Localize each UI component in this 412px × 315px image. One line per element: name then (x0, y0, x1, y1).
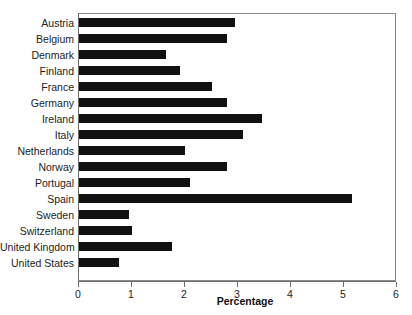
category-label-spain: Spain (0, 191, 74, 207)
bar-row: Italy (0, 127, 412, 143)
category-label-germany: Germany (0, 95, 74, 111)
bar-row: Belgium (0, 31, 412, 47)
bar-row: Denmark (0, 47, 412, 63)
x-tick (396, 282, 397, 287)
bar-portugal (79, 178, 190, 187)
bar-row: United Kingdom (0, 239, 412, 255)
category-label-ireland: Ireland (0, 111, 74, 127)
category-label-finland: Finland (0, 63, 74, 79)
bar-ireland (79, 114, 262, 123)
category-label-austria: Austria (0, 15, 74, 31)
x-tick (78, 282, 79, 287)
bar-row: France (0, 79, 412, 95)
category-label-france: France (0, 79, 74, 95)
bar-denmark (79, 50, 166, 59)
x-axis-title: Percentage (0, 295, 412, 307)
bar-row: Spain (0, 191, 412, 207)
bar-sweden (79, 210, 129, 219)
x-tick (131, 282, 132, 287)
bar-row: Ireland (0, 111, 412, 127)
x-tick (290, 282, 291, 287)
x-tick (237, 282, 238, 287)
x-axis: 0123456 (78, 281, 396, 282)
bar-norway (79, 162, 227, 171)
bar-row: Netherlands (0, 143, 412, 159)
category-label-switzerland: Switzerland (0, 223, 74, 239)
category-label-united-kingdom: United Kingdom (0, 239, 74, 255)
bar-germany (79, 98, 227, 107)
bar-row: Finland (0, 63, 412, 79)
bar-row: Sweden (0, 207, 412, 223)
bar-united-states (79, 258, 119, 267)
bar-row: Switzerland (0, 223, 412, 239)
category-label-norway: Norway (0, 159, 74, 175)
bar-france (79, 82, 212, 91)
bar-belgium (79, 34, 227, 43)
bar-row: Norway (0, 159, 412, 175)
bar-finland (79, 66, 180, 75)
category-label-sweden: Sweden (0, 207, 74, 223)
category-label-italy: Italy (0, 127, 74, 143)
bar-italy (79, 130, 243, 139)
bar-row: Germany (0, 95, 412, 111)
bar-switzerland (79, 226, 132, 235)
bar-rows: AustriaBelgiumDenmarkFinlandFranceGerman… (0, 13, 412, 281)
bar-united-kingdom (79, 242, 172, 251)
category-label-denmark: Denmark (0, 47, 74, 63)
bar-row: Portugal (0, 175, 412, 191)
x-tick (184, 282, 185, 287)
bar-austria (79, 18, 235, 27)
bar-row: Austria (0, 15, 412, 31)
bar-spain (79, 194, 352, 203)
category-label-belgium: Belgium (0, 31, 74, 47)
bar-chart: AustriaBelgiumDenmarkFinlandFranceGerman… (0, 0, 412, 315)
category-label-portugal: Portugal (0, 175, 74, 191)
bar-row: United States (0, 255, 412, 271)
category-label-united-states: United States (0, 255, 74, 271)
x-tick (343, 282, 344, 287)
category-label-netherlands: Netherlands (0, 143, 74, 159)
bar-netherlands (79, 146, 185, 155)
